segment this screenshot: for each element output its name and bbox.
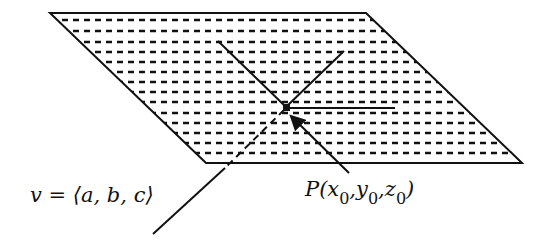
point-y-subscript: 0 xyxy=(368,189,378,208)
plane-diagram xyxy=(0,0,552,251)
comma-2: , xyxy=(378,177,385,201)
point-close: ) xyxy=(406,177,414,201)
normal-vector-hidden xyxy=(227,110,284,166)
plane-hatching xyxy=(40,20,530,153)
vector-label-text: v = ⟨a, b, c⟩ xyxy=(30,183,154,207)
point-p-marker xyxy=(283,104,290,111)
point-z: z xyxy=(385,177,396,201)
plane-line-right xyxy=(286,51,344,107)
point-y: y xyxy=(356,177,368,201)
normal-vector-label: v = ⟨a, b, c⟩ xyxy=(30,183,154,207)
point-z-subscript: 0 xyxy=(396,189,406,208)
plane-outline xyxy=(50,13,522,163)
normal-vector-line xyxy=(153,168,225,234)
point-label: P(x0,y0,z0) xyxy=(305,177,414,201)
point-prefix: P( xyxy=(305,177,327,201)
point-pointer-arrow xyxy=(295,120,349,173)
point-x: x xyxy=(327,177,339,201)
point-x-subscript: 0 xyxy=(339,189,349,208)
